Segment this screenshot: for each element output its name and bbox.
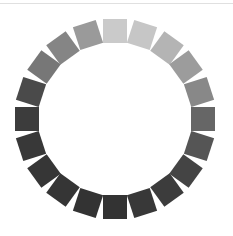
spinner-segment: [103, 195, 127, 219]
spinner-segment: [73, 20, 103, 50]
spinner-segment: [103, 19, 127, 43]
loading-spinner: [0, 0, 233, 236]
spinner-segment: [184, 77, 214, 107]
spinner-segment: [16, 77, 46, 107]
spinner-segment: [73, 188, 103, 218]
spinner-segment: [191, 107, 215, 131]
spinner-segment: [15, 107, 39, 131]
